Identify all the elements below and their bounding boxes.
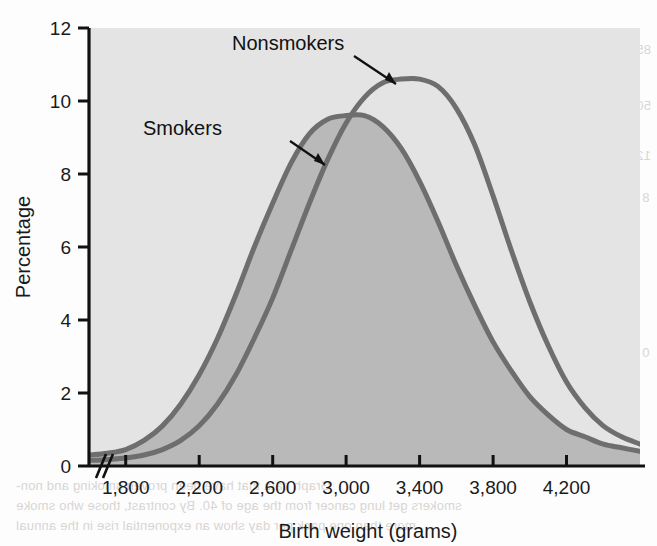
x-tick-label: 3,000 bbox=[322, 477, 370, 498]
y-tick-label: 2 bbox=[60, 383, 71, 404]
distribution-chart: 024681012 1,8002,2002,6003,0003,4003,800… bbox=[0, 0, 657, 546]
x-tick-label: 1,800 bbox=[102, 477, 150, 498]
y-tick-label: 8 bbox=[60, 164, 71, 185]
chart-page: 85 50 12 8 0 Number of deaths per 100,00… bbox=[0, 0, 657, 546]
y-tick-label: 0 bbox=[60, 456, 71, 477]
y-tick-label: 6 bbox=[60, 237, 71, 258]
x-tick-label: 3,800 bbox=[469, 477, 517, 498]
y-axis-ticks: 024681012 bbox=[50, 18, 89, 477]
x-axis-title: Birth weight (grams) bbox=[279, 520, 458, 542]
x-tick-label: 4,200 bbox=[543, 477, 591, 498]
smokers-label: Smokers bbox=[143, 117, 222, 139]
y-tick-label: 12 bbox=[50, 18, 71, 39]
x-tick-label: 2,200 bbox=[175, 477, 223, 498]
y-tick-label: 4 bbox=[60, 310, 71, 331]
x-tick-label: 3,400 bbox=[396, 477, 444, 498]
nonsmokers-label: Nonsmokers bbox=[232, 32, 344, 54]
x-tick-label: 2,600 bbox=[249, 477, 297, 498]
y-tick-label: 10 bbox=[50, 91, 71, 112]
y-axis-title: Percentage bbox=[12, 196, 34, 298]
